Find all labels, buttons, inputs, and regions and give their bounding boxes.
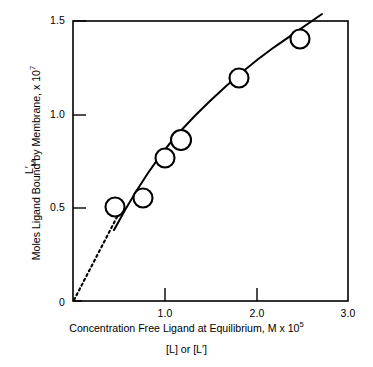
x-tick-label-2-0: 2.0 — [237, 307, 277, 319]
y-axis-title-exponent: 7 — [28, 66, 37, 70]
y-axis-subtitle-base: L — [23, 168, 35, 174]
y-axis-subtitle-subscript: M — [29, 160, 38, 166]
x-axis-title-text: Concentration Free Ligand at Equilibrium… — [69, 322, 299, 334]
x-tick-label-1-0: 1.0 — [145, 307, 185, 319]
x-axis-subtitle: [L] or [L′] — [0, 343, 373, 355]
data-point-3 — [156, 149, 175, 168]
x-tick-label-3-0: 3.0 — [328, 307, 368, 319]
data-point-4 — [171, 130, 191, 150]
y-axis-subtitle-prime: ′ — [24, 166, 35, 168]
x-axis-ticks — [165, 288, 257, 301]
data-point-5 — [230, 69, 249, 88]
plot-frame — [73, 21, 348, 301]
data-point-6 — [291, 30, 310, 49]
chart-figure: 1.5 1.0 0.5 0 1.0 2.0 3.0 Moles Ligand B… — [0, 0, 373, 367]
plot-canvas — [0, 0, 373, 367]
y-axis-subtitle-container: L′M — [19, 137, 33, 197]
y-axis-ticks — [73, 21, 86, 301]
extrapolation-dotted-line — [74, 217, 117, 300]
data-points — [106, 30, 310, 217]
x-axis-title-exponent: 5 — [300, 320, 304, 329]
x-axis-title: Concentration Free Ligand at Equilibrium… — [0, 322, 373, 334]
data-point-1 — [106, 198, 125, 217]
y-axis-subtitle: L′M — [23, 160, 35, 174]
data-point-2 — [134, 189, 153, 208]
